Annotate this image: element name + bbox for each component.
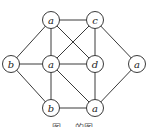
figure-caption: 图 ··· 的图 — [52, 122, 93, 127]
node-label: a — [92, 103, 98, 114]
node-n1: a — [43, 12, 60, 29]
node-label: a — [48, 59, 54, 70]
edges — [11, 20, 137, 108]
edge-n4-n8 — [51, 64, 95, 108]
node-n2: c — [87, 12, 104, 29]
node-n7: b — [43, 100, 60, 117]
node-label: b — [48, 103, 54, 114]
node-n4: a — [43, 56, 60, 73]
node-label: a — [134, 59, 140, 70]
node-n6: a — [129, 56, 146, 73]
edge-n6-n8 — [95, 64, 137, 108]
node-n3: b — [3, 56, 20, 73]
node-n5: d — [87, 56, 104, 73]
node-label: b — [8, 59, 14, 70]
node-label: c — [92, 15, 98, 26]
node-label: d — [92, 59, 98, 70]
edge-n2-n6 — [95, 20, 137, 64]
graph-diagram: acbadaba 图 ··· 的图 — [0, 0, 150, 127]
node-n8: a — [87, 100, 104, 117]
node-label: a — [48, 15, 54, 26]
